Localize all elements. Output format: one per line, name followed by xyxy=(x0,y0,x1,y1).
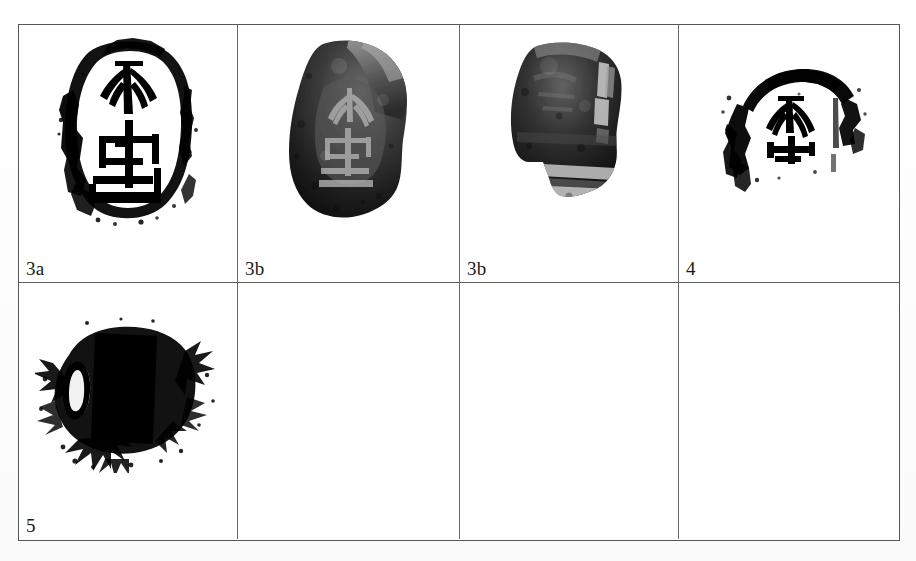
artifact-photograph-3b-side-image xyxy=(499,36,639,226)
seal-impression-3a-image xyxy=(53,34,203,229)
plate-cell-label: 5 xyxy=(26,516,36,535)
figure-3b-side-container xyxy=(460,25,678,237)
plate-cell-label: 3b xyxy=(467,259,486,278)
plate-row-top: 3a xyxy=(19,25,899,283)
seal-impression-4-image xyxy=(709,54,869,194)
plate-cell-label: 3b xyxy=(245,259,264,278)
plate-cell-empty-2[interactable] xyxy=(460,283,679,539)
figure-4-container xyxy=(679,25,898,237)
figure-5-container xyxy=(19,303,237,483)
plate-cell-label: 4 xyxy=(686,259,696,278)
plate-cell-4[interactable]: 4 xyxy=(679,25,898,282)
plate-row-bottom: 5 xyxy=(19,283,899,539)
seal-rubbing-5-image xyxy=(35,313,221,473)
plate-cell-3b-front[interactable]: 3b xyxy=(238,25,460,282)
plate-cell-label: 3a xyxy=(26,259,44,278)
artifact-photograph-3b-front-image xyxy=(279,36,419,226)
figure-3b-front-container xyxy=(238,25,459,237)
plate-cell-empty-1[interactable] xyxy=(238,283,460,539)
plate-cell-5[interactable]: 5 xyxy=(19,283,238,539)
plate-cell-3b-side[interactable]: 3b xyxy=(460,25,679,282)
plate-cell-empty-3[interactable] xyxy=(679,283,898,539)
plate-cell-3a[interactable]: 3a xyxy=(19,25,238,282)
plate-table: 3a xyxy=(18,24,900,541)
figure-3a-container xyxy=(19,25,237,237)
